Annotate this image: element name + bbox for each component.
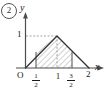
fraction-denominator: 2 (30, 81, 42, 89)
fraction-denominator: 2 (65, 81, 77, 89)
y-axis-label: y (20, 3, 24, 13)
fraction-numerator: 3 (65, 72, 77, 80)
item-number-badge: 2 (1, 3, 17, 19)
fraction-numerator: 1 (30, 72, 42, 80)
x-axis-label: x (95, 62, 99, 72)
x-tick-label-one: 1 (52, 72, 64, 81)
x-tick-label-two: 2 (86, 70, 91, 79)
x-tick-label-one-half: 1 2 (30, 72, 42, 89)
y-tick-label-1: 1 (17, 30, 22, 39)
function-graph-figure (0, 0, 110, 98)
origin-label: O (17, 71, 24, 80)
x-tick-label-three-halves: 3 2 (65, 72, 77, 89)
